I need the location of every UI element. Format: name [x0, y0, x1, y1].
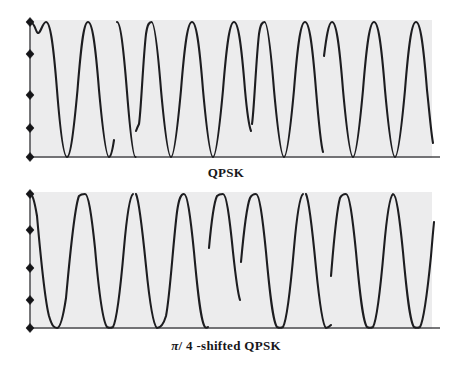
qpsk-plot-background	[30, 20, 432, 158]
qpsk-svg	[0, 0, 452, 165]
waveform-figure: QPSK π/ 4 -shifted QPSK	[0, 0, 452, 371]
plot-pi4-shifted-qpsk	[0, 186, 452, 336]
pi4-svg	[0, 186, 452, 336]
caption-pi4-shifted-qpsk: π/ 4 -shifted QPSK	[0, 338, 452, 354]
panel-pi4-shifted-qpsk: π/ 4 -shifted QPSK	[0, 186, 452, 371]
panel-qpsk: QPSK	[0, 0, 452, 185]
caption-qpsk-text: QPSK	[208, 165, 245, 180]
caption-qpsk: QPSK	[0, 165, 452, 181]
caption-pi4-text: / 4 -shifted QPSK	[179, 338, 281, 353]
pi-symbol: π	[171, 338, 178, 353]
plot-qpsk	[0, 0, 452, 150]
